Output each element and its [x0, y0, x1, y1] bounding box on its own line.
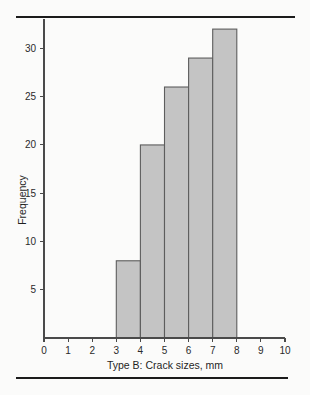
histogram-bar [165, 87, 189, 338]
y-tick-label: 5 [30, 284, 36, 295]
chart-svg: 51015202530 012345678910 Type B: Crack s… [0, 0, 310, 395]
x-tick-label: 6 [186, 345, 192, 356]
histogram-bar [213, 29, 237, 338]
histogram-bar [189, 58, 213, 338]
x-tick-label: 4 [138, 345, 144, 356]
figure-container: 51015202530 012345678910 Type B: Crack s… [0, 0, 310, 395]
x-axis-title: Type B: Crack sizes, mm [107, 359, 223, 371]
y-axis-title: Frequency [16, 174, 28, 224]
x-tick-label: 5 [162, 345, 168, 356]
histogram-chart: 51015202530 012345678910 Type B: Crack s… [0, 0, 310, 395]
histogram-bar [116, 261, 140, 338]
histogram-bar [140, 145, 164, 338]
x-tick-label: 1 [65, 345, 71, 356]
y-tick-label: 20 [25, 139, 37, 150]
x-tick-label: 0 [41, 345, 47, 356]
x-tick-label: 8 [234, 345, 240, 356]
x-tick-label: 10 [279, 345, 291, 356]
y-tick-label: 10 [25, 236, 37, 247]
bars-group [116, 29, 237, 338]
y-tick-label: 25 [25, 91, 37, 102]
x-axis-ticks: 012345678910 [41, 338, 291, 356]
y-tick-label: 30 [25, 43, 37, 54]
x-tick-label: 2 [89, 345, 95, 356]
y-axis-ticks: 51015202530 [25, 43, 44, 295]
x-tick-label: 9 [258, 345, 264, 356]
x-tick-label: 7 [210, 345, 216, 356]
x-tick-label: 3 [114, 345, 120, 356]
